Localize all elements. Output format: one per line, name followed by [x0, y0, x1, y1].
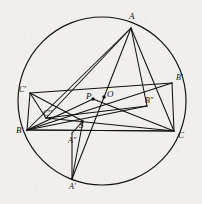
point-label-adbl: A''	[68, 137, 76, 145]
point-label-o: O	[107, 90, 114, 99]
chord-B-C-lower	[27, 130, 174, 131]
side-AC	[131, 28, 174, 131]
point-label-bprime: B'	[176, 74, 183, 82]
chord-A-Bdbl	[131, 28, 147, 106]
chord-Cprime-Bprime	[30, 83, 172, 93]
figure-page: { "figure": { "title": "Circumscribed tr…	[0, 0, 202, 204]
chord-Bprime-C	[172, 83, 174, 131]
cevian-A-Aprime	[72, 28, 131, 179]
point-label-cdbl: C''	[43, 110, 52, 118]
geometry-diagram	[0, 0, 202, 204]
point-dot-o	[102, 95, 105, 98]
point-label-p: P	[86, 92, 92, 101]
point-label-c: C	[178, 131, 184, 140]
point-label-b: B	[16, 126, 22, 135]
point-label-s: S	[79, 121, 84, 130]
point-label-bdbl: B''	[145, 97, 153, 105]
point-dots-layer	[91, 95, 105, 100]
chord-Cprime-B	[27, 93, 30, 130]
cevian-C-P	[93, 99, 174, 131]
point-label-aprime: A'	[69, 183, 76, 191]
chord-Cdbl-C	[46, 118, 174, 131]
cevian-A-Cdbl	[46, 28, 131, 118]
point-label-cprime: C'	[19, 86, 26, 94]
point-label-a: A	[129, 12, 135, 21]
